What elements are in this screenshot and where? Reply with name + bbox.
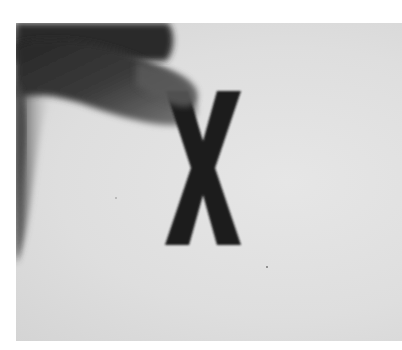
photo-frame <box>16 23 402 341</box>
speck <box>266 266 268 268</box>
hand <box>16 23 196 263</box>
photo-scene <box>16 23 402 341</box>
speck <box>115 197 117 199</box>
letter-x <box>165 91 241 245</box>
